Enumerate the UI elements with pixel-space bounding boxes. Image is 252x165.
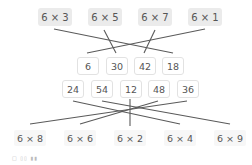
watermark: □ ▯▯ ▮▮ <box>12 155 38 161</box>
product-box[interactable]: 42 <box>134 57 156 75</box>
product-box[interactable]: 6 <box>77 57 99 75</box>
top-expression-6x5[interactable]: 6 × 5 <box>88 8 122 26</box>
bottom-expression-6x6[interactable]: 6 × 6 <box>64 130 96 146</box>
bottom-expression-6x9[interactable]: 6 × 9 <box>214 130 246 146</box>
top-expression-6x1[interactable]: 6 × 1 <box>188 8 222 26</box>
product-box[interactable]: 48 <box>148 80 170 98</box>
bottom-expression-6x8[interactable]: 6 × 8 <box>14 130 46 146</box>
top-expression-6x3[interactable]: 6 × 3 <box>38 8 72 26</box>
product-box[interactable]: 54 <box>91 80 113 98</box>
bottom-expression-6x4[interactable]: 6 × 4 <box>164 130 196 146</box>
product-box[interactable]: 12 <box>120 80 142 98</box>
line-6x3-to-18 <box>54 29 173 53</box>
top-expression-6x7[interactable]: 6 × 7 <box>138 8 172 26</box>
product-box[interactable]: 24 <box>62 80 84 98</box>
product-box[interactable]: 36 <box>177 80 199 98</box>
bottom-expression-6x2[interactable]: 6 × 2 <box>114 130 146 146</box>
product-box[interactable]: 30 <box>106 57 128 75</box>
product-box[interactable]: 18 <box>162 57 184 75</box>
